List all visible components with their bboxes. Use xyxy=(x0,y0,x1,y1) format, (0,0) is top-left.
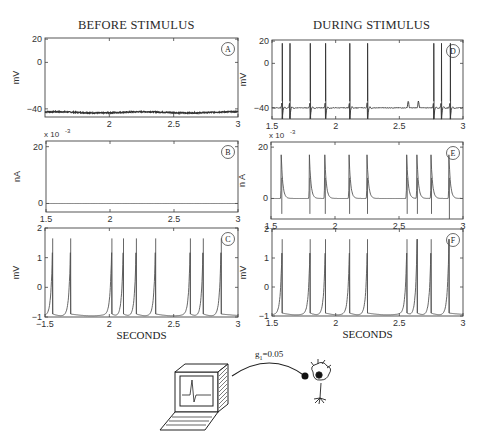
trace-line xyxy=(271,155,463,219)
panel-letter: C xyxy=(225,235,230,244)
y-axis-label: n A xyxy=(237,174,247,187)
x-tick-label: 2 xyxy=(332,221,337,231)
y-axis-label: mV xyxy=(238,73,248,87)
plot-frame xyxy=(46,141,238,212)
panel-letter: D xyxy=(450,47,456,56)
y-tick-label: 20 xyxy=(32,34,42,44)
panel-letter: E xyxy=(451,149,456,158)
panel-e: 2001.522.53n Ax 10-3E xyxy=(237,129,466,231)
panel-letter: A xyxy=(225,45,231,54)
x-tick-label: 2 xyxy=(107,119,112,129)
y-tick-label: 0 xyxy=(37,57,42,67)
x-tick-label: 2.5 xyxy=(393,318,406,328)
plot-frame xyxy=(45,38,238,117)
x-tick-label: 3 xyxy=(235,119,240,129)
x-tick-label: 2 xyxy=(107,319,112,329)
y-axis-label: mV xyxy=(238,266,248,280)
panel-f: 210−11.522.53mVSECONDSF xyxy=(238,224,466,340)
trace-line xyxy=(45,111,238,113)
x-tick-label: −1.5 xyxy=(36,319,54,329)
x-tick-label: 2.5 xyxy=(393,121,406,131)
panel-letter: B xyxy=(225,148,230,157)
x-tick-label: 2.5 xyxy=(167,119,180,129)
y-tick-label: 2 xyxy=(37,223,42,233)
x-tick-label: 3 xyxy=(460,318,465,328)
scale-exponent-power: -3 xyxy=(290,129,296,135)
scale-exponent: x 10 xyxy=(44,130,60,139)
x-tick-label: 1.5 xyxy=(266,318,279,328)
y-tick-label: −40 xyxy=(254,103,269,113)
y-tick-label: 0 xyxy=(37,282,42,292)
y-tick-label: 1 xyxy=(37,253,42,263)
panel-letter: F xyxy=(451,236,456,245)
x-tick-label: 2.5 xyxy=(168,214,181,224)
x-tick-label: 3 xyxy=(235,319,240,329)
x-tick-label: 2 xyxy=(333,318,338,328)
plot-frame xyxy=(45,228,238,317)
scale-exponent: x 10 xyxy=(269,131,285,140)
y-tick-label: 0 xyxy=(38,198,43,208)
coupling-label: g1=0.05 xyxy=(255,349,283,361)
x-axis-label: SECONDS xyxy=(342,328,392,340)
y-axis-label: mV xyxy=(11,266,21,280)
trace-line xyxy=(45,238,238,315)
y-tick-label: 0 xyxy=(264,282,269,292)
y-tick-label: 0 xyxy=(263,193,268,203)
x-tick-label: 3 xyxy=(460,121,465,131)
y-tick-label: 20 xyxy=(258,142,268,152)
y-tick-label: 20 xyxy=(259,36,269,46)
panel-c: 210−1−1.522.53mVSECONDSC xyxy=(11,223,241,341)
y-tick-label: 0 xyxy=(264,58,269,68)
y-tick-label: 20 xyxy=(33,142,43,152)
trace-line xyxy=(272,239,463,315)
panel-d: 200−401.522.53mVD xyxy=(238,36,466,131)
y-axis-label: mV xyxy=(11,71,21,85)
x-tick-label: 2.5 xyxy=(167,319,180,329)
x-tick-label: 1.5 xyxy=(266,121,279,131)
y-tick-label: 2 xyxy=(264,224,269,234)
panel-b: 2001.522.53nAx 10-3B xyxy=(12,128,241,224)
trace-line xyxy=(272,43,463,119)
y-axis-label: nA xyxy=(12,171,22,182)
panel-a: 200−4022.53mVA xyxy=(11,34,241,129)
figure-canvas: 200−4022.53mVA2001.522.53nAx 10-3B210−1−… xyxy=(0,0,483,445)
scale-exponent-power: -3 xyxy=(65,128,71,134)
x-axis-label: SECONDS xyxy=(116,329,166,341)
y-tick-label: −40 xyxy=(27,104,42,114)
x-tick-label: 3 xyxy=(235,214,240,224)
y-tick-label: 1 xyxy=(264,253,269,263)
x-tick-label: 2 xyxy=(333,121,338,131)
x-tick-label: 2 xyxy=(107,214,112,224)
